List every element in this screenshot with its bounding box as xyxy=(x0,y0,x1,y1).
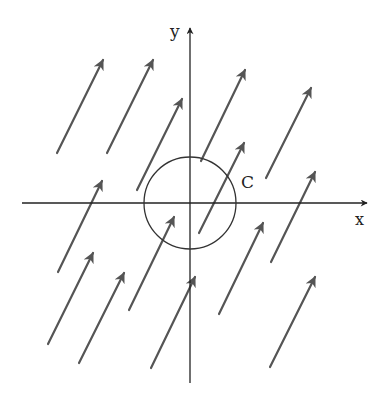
field-arrow-icon xyxy=(79,273,124,363)
field-arrow-icon xyxy=(199,143,244,233)
curve-c-label: C xyxy=(241,174,254,191)
x-axis-label: x xyxy=(355,212,364,228)
field-arrow-icon xyxy=(270,277,315,367)
field-arrow-icon xyxy=(58,181,102,272)
field-arrow-icon xyxy=(201,70,245,161)
y-axis-label: y xyxy=(170,23,180,40)
field-arrow-icon xyxy=(266,88,311,178)
field-arrow-icon xyxy=(48,253,93,344)
field-arrow-icon xyxy=(57,60,103,153)
field-arrow-icon xyxy=(151,277,195,368)
field-arrow-icon xyxy=(271,172,315,262)
field-arrow-icon xyxy=(137,99,182,190)
field-arrow-icon xyxy=(107,60,153,153)
vector-field-diagram xyxy=(0,0,384,398)
vector-field-arrows xyxy=(48,60,315,368)
field-arrow-icon xyxy=(219,223,263,314)
field-arrow-icon xyxy=(129,217,174,310)
